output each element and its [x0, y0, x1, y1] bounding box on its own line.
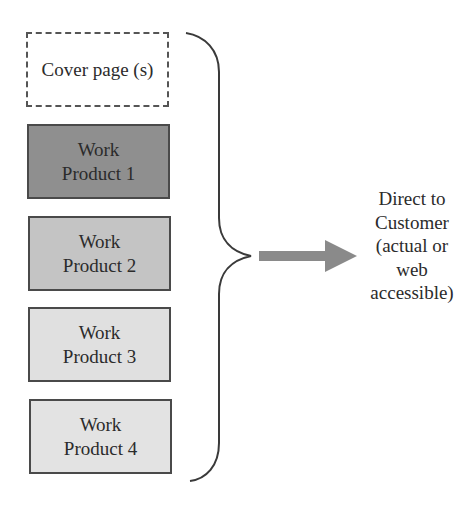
box-label-line: Product 2	[63, 254, 136, 278]
destination-line: Customer	[350, 211, 474, 235]
destination-line: (actual or	[350, 234, 474, 258]
work-product-box: WorkProduct 4	[29, 399, 172, 474]
work-product-box: WorkProduct 3	[28, 307, 171, 382]
box-label-line: Cover page (s)	[42, 58, 154, 82]
box-label-line: Product 1	[62, 162, 135, 186]
destination-label: Direct to Customer (actual or web access…	[350, 187, 474, 305]
work-product-box: WorkProduct 2	[28, 216, 171, 291]
destination-line: Direct to	[350, 187, 474, 211]
box-label-line: Work	[79, 321, 121, 345]
box-label-line: Product 4	[64, 437, 137, 461]
grouping-brace	[186, 33, 251, 481]
destination-line: web	[350, 258, 474, 282]
box-label-line: Work	[79, 230, 121, 254]
cover-page-box: Cover page (s)	[26, 32, 169, 107]
arrow-right-icon	[259, 240, 357, 272]
box-label-line: Work	[78, 138, 120, 162]
box-label-line: Work	[80, 413, 122, 437]
box-label-line: Product 3	[63, 345, 136, 369]
destination-line: accessible)	[350, 281, 474, 305]
work-product-box: WorkProduct 1	[27, 124, 170, 199]
